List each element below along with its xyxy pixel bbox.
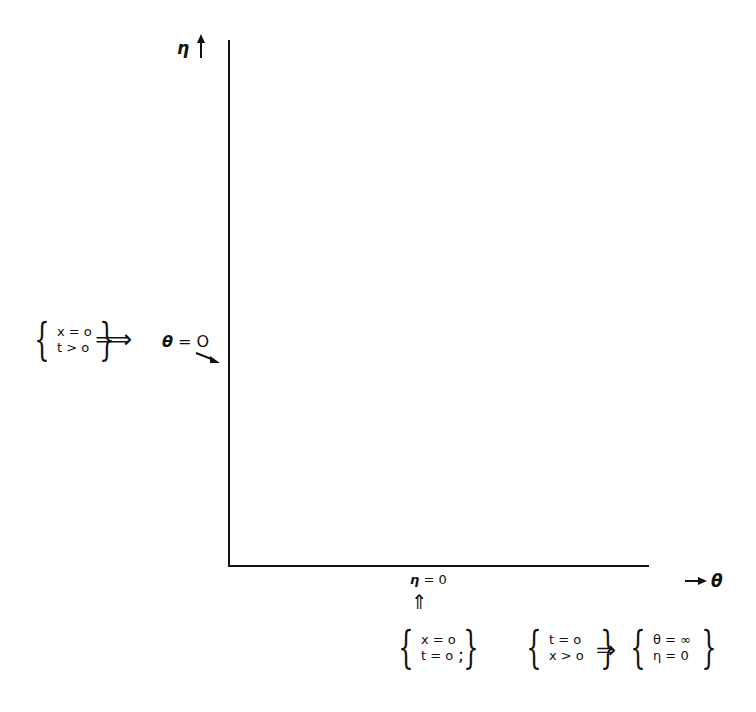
double-up-arrow-icon: ⇑ (411, 592, 428, 612)
result-line: η = 0 (653, 648, 691, 664)
condition-line: x = o (57, 324, 92, 340)
right-brace: } (701, 626, 716, 670)
result-line: θ = ∞ (653, 632, 691, 648)
arrow-right-icon (685, 576, 709, 586)
origin-condition: { x = o t = o } (392, 626, 485, 670)
implies-arrow: ⟹ (95, 326, 132, 352)
eta-zero-label: η = 0 (410, 573, 447, 586)
condition-line: t > o (57, 340, 92, 356)
condition-line: t = o (421, 648, 456, 664)
left-brace: { (526, 626, 541, 670)
theta-axis (228, 565, 649, 567)
theta-axis-label: θ (711, 573, 723, 590)
condition-line: x > o (549, 648, 584, 664)
initial-condition-result: { θ = ∞ η = 0 } (624, 626, 723, 670)
condition-line: t = o (549, 632, 584, 648)
separator: ; (458, 646, 464, 664)
left-brace: { (630, 626, 645, 670)
eta-axis-label: η (177, 40, 189, 57)
left-brace: { (34, 318, 49, 362)
implies-arrow: ⇒ (596, 638, 616, 662)
theta-zero-label: θ = O (162, 334, 209, 350)
arrow-up-icon (196, 34, 210, 60)
condition-line: x = o (421, 632, 456, 648)
eta-axis (228, 40, 230, 567)
right-brace: } (463, 626, 478, 670)
pointer-arrow-icon (196, 352, 222, 366)
left-brace: { (398, 626, 413, 670)
